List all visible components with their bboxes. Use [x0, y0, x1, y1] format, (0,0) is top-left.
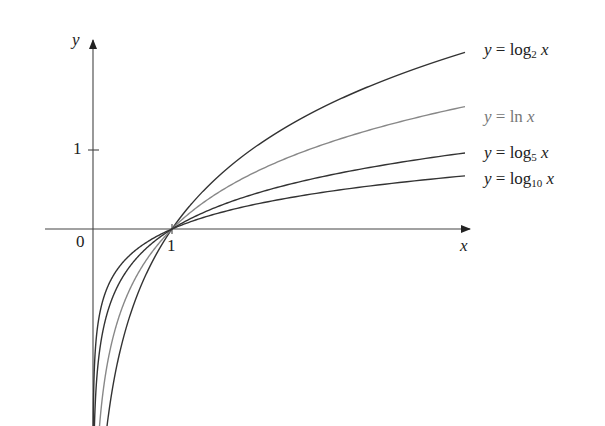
x-axis-label: x [460, 236, 468, 256]
curve-y-log2-x [107, 52, 465, 426]
legend-label-0: y = log2 x [484, 40, 549, 60]
curve-y-log10-x [93, 176, 465, 426]
curve-y-ln-x [100, 107, 465, 426]
y-tick-label-1: 1 [73, 139, 82, 159]
legend-label-2: y = log5 x [484, 143, 549, 163]
curve-y-log5-x [94, 153, 465, 426]
legend-label-1: y = ln x [484, 107, 535, 127]
origin-label: 0 [76, 232, 85, 252]
curves [93, 52, 465, 426]
axes [45, 40, 470, 426]
y-axis-label: y [72, 30, 80, 50]
chart-canvas [0, 0, 605, 426]
x-tick-label-1: 1 [167, 236, 176, 256]
legend-label-3: y = log10 x [484, 169, 554, 189]
